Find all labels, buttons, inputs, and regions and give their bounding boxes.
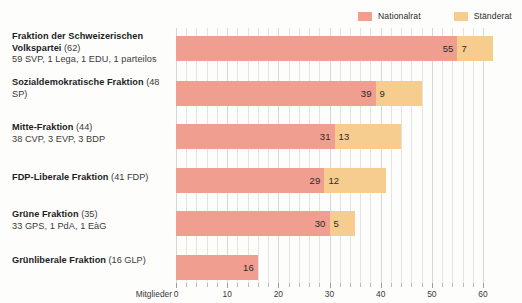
category-name-4: Grüne Fraktion [12, 209, 79, 219]
category-paren-2: (44) [76, 122, 92, 132]
bar-segment-staenderat[interactable]: 13 [335, 124, 402, 149]
gridline [381, 28, 382, 283]
gridline [370, 28, 371, 283]
axis-tick [360, 283, 361, 287]
gridline [227, 28, 228, 283]
bar-segment-nationalrat[interactable]: 16 [176, 255, 258, 280]
bar-value-nationalrat: 31 [320, 131, 335, 142]
axis-tick [442, 283, 443, 287]
axis-tick [299, 283, 300, 287]
category-paren-4: (35) [81, 209, 97, 219]
axis-tick-label: 0 [174, 289, 179, 299]
bar-value-staenderat: 12 [324, 175, 339, 186]
bar-segment-staenderat[interactable]: 9 [376, 81, 422, 106]
axis-tick-label: 10 [222, 289, 231, 299]
gridline [442, 28, 443, 283]
bar-row[interactable]: 399 [176, 81, 422, 106]
axis-tick [268, 283, 269, 287]
gridline [463, 28, 464, 283]
gridline [391, 28, 392, 283]
bar-value-staenderat: 7 [457, 43, 466, 54]
axis-tick [473, 283, 474, 287]
gridline [289, 28, 290, 283]
axis-tick [411, 283, 412, 287]
axis-tick [278, 283, 279, 288]
axis-tick [463, 283, 464, 287]
bar-row[interactable]: 2912 [176, 168, 386, 193]
category-sub-4: 33 GPS, 1 PdA, 1 EàG [12, 221, 174, 233]
bar-segment-nationalrat[interactable]: 30 [176, 211, 330, 236]
bar-segment-nationalrat[interactable]: 31 [176, 124, 335, 149]
bar-row[interactable]: 3113 [176, 124, 401, 149]
category-paren-0: (62) [64, 43, 80, 53]
legend-label-staenderat: Ständerat [474, 11, 512, 21]
gridline [217, 28, 218, 283]
gridline [186, 28, 187, 283]
gridlines [176, 28, 483, 283]
category-paren-5: (16 GLP) [109, 255, 146, 265]
gridline [176, 28, 177, 283]
bar-segment-staenderat[interactable]: 12 [324, 168, 385, 193]
axis-tick [370, 283, 371, 287]
category-name-3: FDP-Liberale Fraktion [12, 172, 109, 182]
gridline [473, 28, 474, 283]
bar-segment-nationalrat[interactable]: 39 [176, 81, 376, 106]
axis-tick [176, 283, 177, 288]
bar-value-nationalrat: 30 [315, 218, 330, 229]
gridline [248, 28, 249, 283]
axis-tick [391, 283, 392, 287]
bar-segment-staenderat[interactable]: 7 [457, 36, 493, 61]
axis-tick [227, 283, 228, 288]
category-label-3: FDP-Liberale Fraktion (41 FDP) [12, 172, 174, 184]
bar-value-staenderat: 13 [335, 131, 350, 142]
bar-value-nationalrat: 39 [361, 88, 376, 99]
gridline [309, 28, 310, 283]
axis-tick-label: 20 [274, 289, 283, 299]
category-paren-3: (41 FDP) [111, 172, 148, 182]
axis-tick-label: 50 [427, 289, 436, 299]
axis-tick [422, 283, 423, 287]
axis-tick [309, 283, 310, 287]
gridline [237, 28, 238, 283]
axis-tick [340, 283, 341, 287]
category-label-4: Grüne Fraktion (35) 33 GPS, 1 PdA, 1 EàG [12, 209, 174, 232]
gridline [278, 28, 279, 283]
legend-swatch-nationalrat [358, 12, 372, 21]
axis-tick [237, 283, 238, 287]
axis-tick [289, 283, 290, 287]
axis-tick [452, 283, 453, 287]
legend-label-nationalrat: Nationalrat [378, 11, 421, 21]
bar-row[interactable]: 557 [176, 36, 493, 61]
gridline [401, 28, 402, 283]
axis-tick [483, 283, 484, 288]
legend-item-staenderat: Ständerat [454, 8, 512, 24]
category-label-5: Grünliberale Fraktion (16 GLP) [12, 255, 174, 267]
bar-value-nationalrat: 55 [443, 43, 458, 54]
axis-tick-label: 40 [376, 289, 385, 299]
bar-segment-nationalrat[interactable]: 29 [176, 168, 324, 193]
axis-tick [401, 283, 402, 287]
bar-value-nationalrat: 16 [243, 262, 258, 273]
gridline [330, 28, 331, 283]
bar-segment-staenderat[interactable]: 5 [330, 211, 356, 236]
bar-value-staenderat: 5 [330, 218, 339, 229]
gridline [350, 28, 351, 283]
gridline [452, 28, 453, 283]
bar-segment-nationalrat[interactable]: 55 [176, 36, 457, 61]
axis-tick [248, 283, 249, 287]
axis-tick [330, 283, 331, 288]
axis-tick [207, 283, 208, 287]
gridline [483, 28, 484, 283]
bar-value-nationalrat: 29 [310, 175, 325, 186]
gridline [432, 28, 433, 283]
category-name-1: Sozialdemokratische Fraktion [12, 77, 144, 87]
axis-tick-label: 30 [325, 289, 334, 299]
bar-row[interactable]: 16 [176, 255, 258, 280]
bar-row[interactable]: 305 [176, 211, 355, 236]
legend-swatch-staenderat [454, 12, 468, 21]
category-label-0: Fraktion der Schweizerischen Volkspartei… [12, 31, 174, 66]
gridline [319, 28, 320, 283]
bar-value-staenderat: 9 [376, 88, 385, 99]
gridline [207, 28, 208, 283]
category-label-1: Sozialdemokratische Fraktion (48 SP) [12, 77, 174, 100]
